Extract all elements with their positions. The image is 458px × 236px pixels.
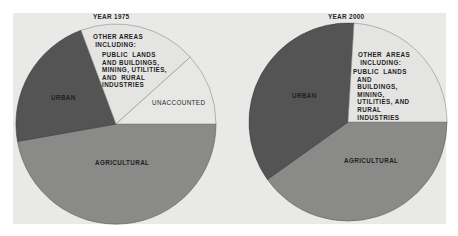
pie-1975-unaccounted-label: UNACCOUNTED xyxy=(152,99,205,107)
pie-2000-other-heading: OTHER AREAS INCLUDING: xyxy=(358,51,410,66)
pie-1975-agricultural-label: AGRICULTURAL xyxy=(95,159,149,167)
slice-1975-agricultural xyxy=(18,124,217,224)
pie-2000-other-detail: PUBLIC LANDS AND BUILDINGS, MINING, UTIL… xyxy=(353,68,410,121)
pie-1975-other-heading: OTHER AREAS INCLUDING: xyxy=(93,33,143,48)
pie-2000-urban-label: URBAN xyxy=(292,92,317,100)
pie-2000-title: YEAR 2000 xyxy=(328,13,364,20)
pie-1975-other-detail: PUBLIC LANDS AND BUILDINGS, MINING, UTIL… xyxy=(102,51,167,89)
pie-2000 xyxy=(249,23,447,221)
pie-2000-agricultural-label: AGRICULTURAL xyxy=(344,157,398,165)
pie-1975-urban-label: URBAN xyxy=(51,94,76,102)
pie-1975-title: YEAR 1975 xyxy=(93,13,129,20)
